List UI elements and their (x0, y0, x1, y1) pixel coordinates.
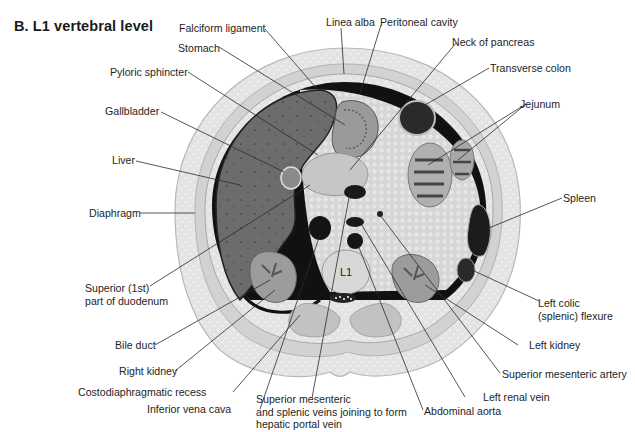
abdominal-aorta (347, 233, 363, 249)
label-left-colic-flexure: Left colic (splenic) flexure (538, 297, 613, 322)
anatomy-figure: L1 (0, 0, 635, 432)
label-jejunum: Jejunum (520, 98, 560, 111)
label-bile-duct: Bile duct (115, 339, 156, 352)
inferior-vena-cava (309, 216, 331, 240)
label-gallbladder: Gallbladder (105, 105, 159, 118)
label-stomach: Stomach (178, 42, 220, 55)
label-superior-mesenteric-artery: Superior mesenteric artery (502, 368, 627, 381)
figure-title: B. L1 vertebral level (14, 18, 153, 34)
label-superior-duodenum: Superior (1st) part of duodenum (85, 282, 168, 307)
label-spleen: Spleen (563, 192, 596, 205)
label-falciform-ligament: Falciform ligament (179, 22, 266, 35)
label-right-kidney: Right kidney (119, 365, 177, 378)
spleen (467, 205, 490, 256)
label-abdominal-aorta: Abdominal aorta (424, 405, 501, 418)
label-costodiaphragmatic-recess: Costodiaphragmatic recess (78, 386, 206, 399)
label-left-renal-vein: Left renal vein (483, 391, 550, 404)
superior-mesenteric-artery (377, 211, 383, 217)
label-inferior-vena-cava: Inferior vena cava (147, 403, 231, 416)
label-linea-alba: Linea alba (326, 16, 375, 29)
left-renal-vein (346, 217, 364, 227)
label-diaphragm: Diaphragm (89, 207, 141, 220)
transverse-colon (399, 101, 435, 135)
gallbladder (281, 167, 301, 189)
label-liver: Liver (112, 154, 135, 167)
label-sm-splenic-veins: Superior mesenteric and splenic veins jo… (256, 393, 407, 431)
portal-vein-confluence (344, 185, 366, 199)
vertebra-label: L1 (340, 266, 352, 278)
label-peritoneal-cavity: Peritoneal cavity (380, 16, 458, 29)
label-left-kidney: Left kidney (529, 339, 580, 352)
label-transverse-colon: Transverse colon (490, 62, 571, 75)
label-pyloric-sphincter: Pyloric sphincter (110, 66, 188, 79)
label-neck-of-pancreas: Neck of pancreas (452, 36, 534, 49)
